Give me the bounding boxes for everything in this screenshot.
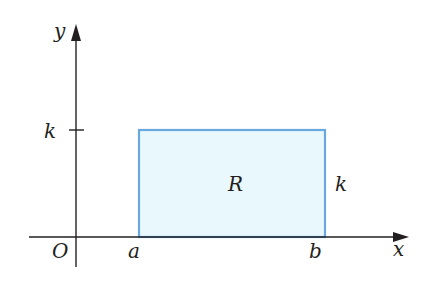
y-axis-label: y bbox=[53, 19, 66, 43]
x-point-b-label: b bbox=[309, 239, 322, 263]
y-axis-arrow-icon bbox=[71, 24, 81, 41]
height-label-k: k bbox=[335, 172, 347, 196]
origin-label: O bbox=[52, 239, 68, 263]
x-point-a-label: a bbox=[128, 239, 140, 263]
region-label: R bbox=[227, 172, 243, 196]
y-tick-label-k: k bbox=[44, 119, 56, 143]
x-axis-label: x bbox=[393, 237, 404, 261]
diagram-canvas: y k O a b x R k bbox=[0, 0, 431, 281]
